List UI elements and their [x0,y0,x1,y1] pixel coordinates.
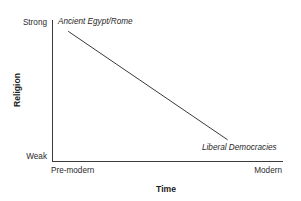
religion-time-chart: Strong Weak Pre-modern Modern Religion T… [0,0,301,201]
annotation-ancient-egypt-rome: Ancient Egypt/Rome [58,18,133,26]
annotation-liberal-democracies: Liberal Democracies [202,144,277,152]
trend-line-religiosity [68,31,227,140]
series-plot-area [0,0,301,201]
